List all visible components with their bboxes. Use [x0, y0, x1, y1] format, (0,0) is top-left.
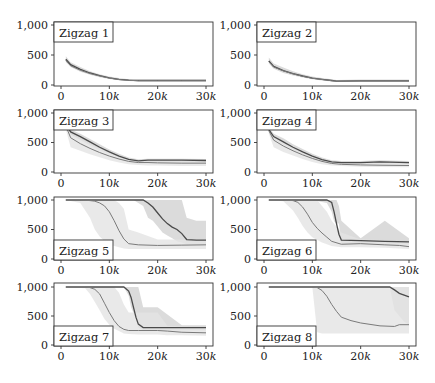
y-tick-label: 500 — [230, 136, 251, 149]
x-tick-label: 10k — [302, 177, 323, 190]
y-tick-label: 500 — [27, 310, 48, 323]
y-tick-label: 500 — [27, 136, 48, 149]
y-tick-label: 0 — [244, 253, 251, 266]
x-tick-label: 20k — [147, 177, 168, 190]
x-tick-label: 30k — [399, 264, 420, 277]
confidence-band-dark — [269, 57, 409, 81]
x-tick-label: 30k — [399, 177, 420, 190]
y-tick-label: 0 — [41, 253, 48, 266]
x-tick-label: 10k — [302, 90, 323, 103]
y-tick-label: 500 — [27, 49, 48, 62]
x-tick-label: 20k — [147, 350, 168, 363]
x-tick-label: 10k — [302, 350, 323, 363]
panel-4: 05001,000010k20k30kZigzag 4 — [220, 107, 420, 190]
y-tick-label: 1,000 — [220, 107, 252, 120]
y-tick-label: 1,000 — [17, 107, 49, 120]
panel-title: Zigzag 1 — [59, 26, 109, 40]
y-tick-label: 1,000 — [17, 19, 49, 32]
panel-5: 05001,000010k20k30kZigzag 5 — [17, 194, 217, 277]
x-tick-label: 30k — [196, 264, 217, 277]
y-tick-label: 1,000 — [220, 19, 252, 32]
x-tick-label: 0 — [261, 90, 268, 103]
panel-title: Zigzag 8 — [262, 330, 312, 344]
y-tick-label: 0 — [41, 166, 48, 179]
x-tick-label: 0 — [261, 177, 268, 190]
y-tick-label: 0 — [244, 339, 251, 352]
panel-title: Zigzag 7 — [59, 330, 109, 344]
panel-title: Zigzag 5 — [59, 244, 109, 258]
x-tick-label: 30k — [196, 90, 217, 103]
x-tick-label: 0 — [261, 264, 268, 277]
y-tick-label: 1,000 — [220, 194, 252, 207]
panel-2: 05001,000010k20k30kZigzag 2 — [220, 19, 420, 103]
y-tick-label: 0 — [41, 79, 48, 92]
panel-6: 05001,000010k20k30kZigzag 6 — [220, 194, 420, 277]
y-tick-label: 500 — [230, 223, 251, 236]
x-tick-label: 20k — [350, 264, 371, 277]
figure: 05001,000010k20k30kZigzag 105001,000010k… — [0, 0, 435, 383]
x-tick-label: 20k — [350, 177, 371, 190]
y-tick-label: 0 — [41, 339, 48, 352]
y-tick-label: 0 — [244, 166, 251, 179]
x-tick-label: 10k — [99, 350, 120, 363]
confidence-band-dark — [66, 56, 206, 81]
panel-1: 05001,000010k20k30kZigzag 1 — [17, 19, 217, 103]
x-tick-label: 20k — [350, 350, 371, 363]
y-tick-label: 500 — [230, 49, 251, 62]
y-tick-label: 1,000 — [17, 281, 49, 294]
x-tick-label: 10k — [302, 264, 323, 277]
panel-title: Zigzag 4 — [262, 114, 312, 128]
x-tick-label: 0 — [58, 177, 65, 190]
panel-title: Zigzag 6 — [262, 244, 312, 258]
x-tick-label: 0 — [261, 350, 268, 363]
x-tick-label: 20k — [350, 90, 371, 103]
x-tick-label: 30k — [399, 350, 420, 363]
panel-3: 05001,000010k20k30kZigzag 3 — [17, 107, 217, 190]
panel-title: Zigzag 2 — [262, 26, 312, 40]
y-tick-label: 0 — [244, 79, 251, 92]
y-tick-label: 500 — [27, 223, 48, 236]
y-tick-label: 1,000 — [220, 281, 252, 294]
x-tick-label: 10k — [99, 90, 120, 103]
panel-7: 05001,000010k20k30kZigzag 7 — [17, 281, 217, 363]
x-tick-label: 0 — [58, 264, 65, 277]
panel-8: 05001,000010k20k30kZigzag 8 — [220, 281, 420, 363]
x-tick-label: 0 — [58, 90, 65, 103]
x-tick-label: 20k — [147, 90, 168, 103]
x-tick-label: 30k — [196, 177, 217, 190]
panel-title: Zigzag 3 — [59, 114, 109, 128]
series-line-dark — [269, 130, 409, 163]
x-tick-label: 30k — [196, 350, 217, 363]
x-tick-label: 30k — [399, 90, 420, 103]
x-tick-label: 10k — [99, 264, 120, 277]
x-tick-label: 10k — [99, 177, 120, 190]
x-tick-label: 0 — [58, 350, 65, 363]
y-tick-label: 500 — [230, 310, 251, 323]
y-tick-label: 1,000 — [17, 194, 49, 207]
x-tick-label: 20k — [147, 264, 168, 277]
